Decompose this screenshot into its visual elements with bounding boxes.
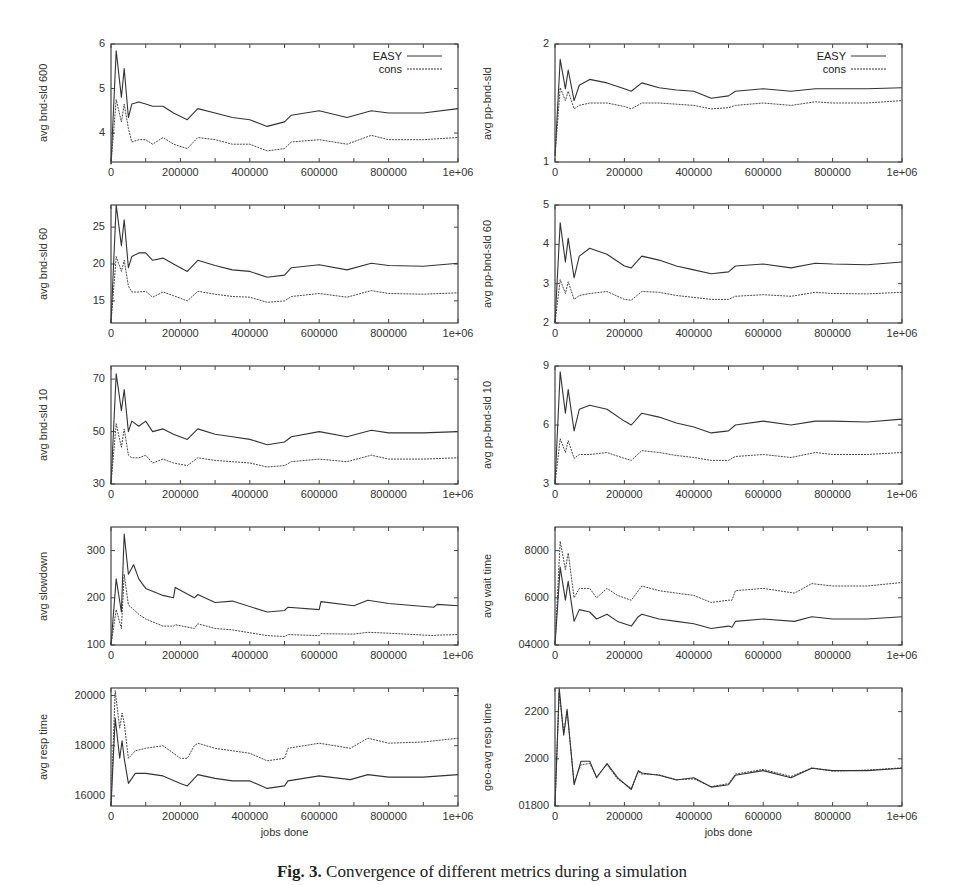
plot-area bbox=[555, 527, 902, 645]
x-tick-label: 200000 bbox=[150, 327, 210, 339]
series-line-easy bbox=[555, 223, 902, 323]
y-axis-label: avg resp time bbox=[37, 714, 49, 780]
x-tick-label: 200000 bbox=[150, 810, 210, 822]
y-tick-label: 4 bbox=[509, 237, 549, 249]
series-line-easy bbox=[111, 51, 458, 165]
series-line-cons bbox=[555, 88, 902, 156]
x-tick-label: 800000 bbox=[803, 810, 863, 822]
plot-area bbox=[111, 205, 458, 323]
plot-slowdown bbox=[111, 527, 458, 645]
series-line-easy bbox=[111, 534, 458, 645]
legend-label: EASY bbox=[817, 50, 847, 62]
x-tick-label: 600000 bbox=[733, 166, 793, 178]
y-tick-label: 2 bbox=[509, 37, 549, 49]
x-axis-label: jobs done bbox=[225, 826, 345, 838]
x-tick-label: 200000 bbox=[150, 649, 210, 661]
x-tick-label: 600000 bbox=[289, 166, 349, 178]
x-tick-label: 800000 bbox=[803, 488, 863, 500]
y-tick-label: 15 bbox=[65, 294, 105, 306]
y-axis-label: avg pp-bnd-sld 60 bbox=[481, 220, 493, 308]
y-tick-label: 2200 bbox=[509, 705, 549, 717]
plot-area: EASYcons bbox=[555, 44, 902, 162]
x-tick-label: 1e+06 bbox=[428, 810, 488, 822]
x-tick-label: 1e+06 bbox=[872, 488, 932, 500]
y-axis-label: avg bnd-sld 600 bbox=[37, 64, 49, 142]
plot-area: EASYcons bbox=[111, 44, 458, 162]
x-tick-label: 400000 bbox=[220, 327, 280, 339]
y-tick-label: 3 bbox=[509, 477, 549, 489]
plot-area bbox=[555, 366, 902, 484]
y-tick-label: 3 bbox=[509, 277, 549, 289]
x-tick-label: 400000 bbox=[220, 810, 280, 822]
x-tick-label: 1e+06 bbox=[428, 327, 488, 339]
y-tick-label: 16000 bbox=[65, 789, 105, 801]
x-tick-label: 400000 bbox=[664, 488, 724, 500]
series-line-cons bbox=[555, 541, 902, 645]
x-tick-label: 0 bbox=[525, 166, 585, 178]
y-tick-label: 6 bbox=[65, 37, 105, 49]
y-tick-label: 04000 bbox=[509, 638, 549, 650]
x-tick-label: 1e+06 bbox=[428, 488, 488, 500]
x-tick-label: 1e+06 bbox=[872, 166, 932, 178]
x-tick-label: 400000 bbox=[220, 649, 280, 661]
x-tick-label: 800000 bbox=[359, 327, 419, 339]
y-tick-label: 20000 bbox=[65, 689, 105, 701]
series-line-cons bbox=[111, 100, 458, 165]
plot-bnd-sld-10 bbox=[111, 366, 458, 484]
x-tick-label: 800000 bbox=[803, 649, 863, 661]
y-tick-label: 1 bbox=[509, 155, 549, 167]
series-line-easy bbox=[111, 205, 458, 323]
x-tick-label: 0 bbox=[81, 488, 141, 500]
series-line-cons bbox=[555, 439, 902, 484]
x-tick-label: 200000 bbox=[150, 166, 210, 178]
y-axis-label: geo-avg resp time bbox=[481, 703, 493, 791]
x-tick-label: 600000 bbox=[289, 327, 349, 339]
x-tick-label: 0 bbox=[81, 810, 141, 822]
x-tick-label: 1e+06 bbox=[872, 649, 932, 661]
y-axis-label: avg pp-bnd-sld bbox=[481, 67, 493, 140]
plot-area bbox=[111, 688, 458, 806]
y-tick-label: 6000 bbox=[509, 591, 549, 603]
x-tick-label: 600000 bbox=[289, 488, 349, 500]
y-tick-label: 70 bbox=[65, 372, 105, 384]
x-tick-label: 200000 bbox=[594, 327, 654, 339]
plot-pp-bnd-sld-60 bbox=[555, 205, 902, 323]
x-tick-label: 0 bbox=[525, 649, 585, 661]
x-tick-label: 600000 bbox=[289, 810, 349, 822]
legend-label: cons bbox=[823, 63, 847, 75]
y-tick-label: 4 bbox=[65, 126, 105, 138]
series-line-cons bbox=[555, 693, 902, 806]
plot-pp-bnd-sld: EASYcons bbox=[555, 44, 902, 162]
series-line-cons bbox=[111, 691, 458, 807]
x-tick-label: 600000 bbox=[733, 810, 793, 822]
y-axis-label: avg slowdown bbox=[37, 551, 49, 620]
x-tick-label: 200000 bbox=[594, 810, 654, 822]
y-tick-label: 5 bbox=[509, 198, 549, 210]
series-line-easy bbox=[111, 718, 458, 806]
caption-label: Fig. 3. bbox=[277, 862, 322, 881]
x-tick-label: 400000 bbox=[664, 810, 724, 822]
y-tick-label: 5 bbox=[65, 82, 105, 94]
x-tick-label: 400000 bbox=[664, 649, 724, 661]
plot-bnd-sld-600: EASYcons bbox=[111, 44, 458, 162]
x-tick-label: 0 bbox=[525, 327, 585, 339]
x-tick-label: 200000 bbox=[594, 649, 654, 661]
x-tick-label: 600000 bbox=[733, 488, 793, 500]
x-tick-label: 400000 bbox=[220, 488, 280, 500]
x-tick-label: 800000 bbox=[359, 166, 419, 178]
y-tick-label: 30 bbox=[65, 477, 105, 489]
series-line-easy bbox=[555, 372, 902, 484]
x-tick-label: 800000 bbox=[359, 649, 419, 661]
figure-caption: Fig. 3. Convergence of different metrics… bbox=[0, 862, 964, 882]
y-axis-label: avg wait time bbox=[481, 554, 493, 618]
y-tick-label: 300 bbox=[65, 544, 105, 556]
x-tick-label: 1e+06 bbox=[428, 649, 488, 661]
y-tick-label: 50 bbox=[65, 425, 105, 437]
y-tick-label: 20 bbox=[65, 257, 105, 269]
x-tick-label: 400000 bbox=[220, 166, 280, 178]
x-tick-label: 0 bbox=[81, 327, 141, 339]
x-tick-label: 800000 bbox=[803, 166, 863, 178]
x-tick-label: 800000 bbox=[359, 488, 419, 500]
series-line-easy bbox=[555, 567, 902, 645]
plot-resp-time bbox=[111, 688, 458, 806]
